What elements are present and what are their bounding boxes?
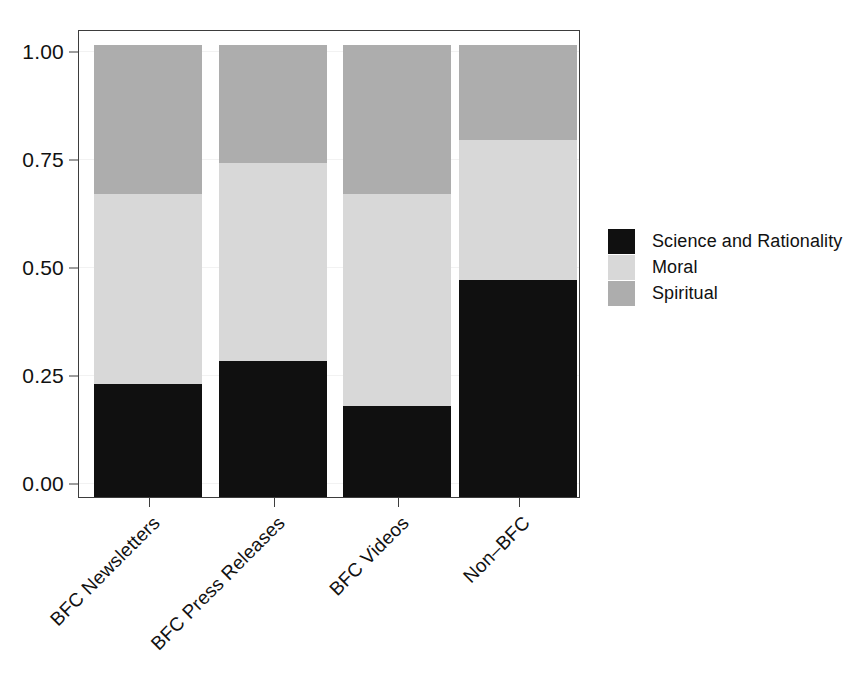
y-axis: 1.00 0.75 0.50 0.25 0.00 (0, 0, 78, 677)
x-axis: BFC Newsletters BFC Press Releases BFC V… (78, 498, 580, 677)
legend-item-spiritual[interactable]: Spiritual (608, 280, 848, 306)
y-axis-tick-mark-3 (69, 268, 78, 269)
stacked-bar-chart-figure: 1.00 0.75 0.50 0.25 0.00 (0, 0, 849, 677)
x-axis-tick-mark-3 (398, 498, 399, 507)
plot-area (79, 31, 579, 497)
y-axis-tick-mark-4 (69, 376, 78, 377)
y-axis-tick-label-4: 0.25 (22, 364, 64, 388)
y-axis-tick-label-5: 0.00 (22, 472, 64, 496)
legend-label-science-and-rationality: Science and Rationality (652, 231, 842, 252)
y-axis-tick-label-1: 1.00 (22, 40, 64, 64)
bar-segment-moral[interactable] (94, 194, 202, 384)
y-axis-tick-label-3: 0.50 (22, 256, 64, 280)
y-axis-tick-mark-1 (69, 52, 78, 53)
x-axis-tick-label-bfc-press-releases: BFC Press Releases (147, 512, 290, 655)
bar-segment-science-and-rationality[interactable] (219, 361, 327, 497)
bar-segment-spiritual[interactable] (343, 45, 451, 194)
bar-segment-moral[interactable] (219, 163, 327, 361)
bar-segment-moral[interactable] (343, 194, 451, 406)
bar-bfc-videos[interactable] (343, 45, 451, 497)
legend-label-moral: Moral (652, 257, 698, 278)
y-axis-tick-mark-2 (69, 160, 78, 161)
x-axis-tick-mark-2 (274, 498, 275, 507)
bar-segment-spiritual[interactable] (459, 45, 577, 140)
y-axis-tick-mark-5 (69, 484, 78, 485)
legend-item-science-and-rationality[interactable]: Science and Rationality (608, 228, 848, 254)
plot-panel (78, 30, 580, 498)
legend-swatch-icon-spiritual (608, 281, 635, 306)
legend-swatch-icon-moral (608, 255, 635, 280)
bar-segment-moral[interactable] (459, 140, 577, 280)
x-axis-tick-mark-1 (149, 498, 150, 507)
legend-label-spiritual: Spiritual (652, 283, 718, 304)
bar-segment-science-and-rationality[interactable] (94, 384, 202, 497)
bar-bfc-press-releases[interactable] (219, 45, 327, 497)
bar-bfc-newsletters[interactable] (94, 45, 202, 497)
bar-segment-science-and-rationality[interactable] (459, 280, 577, 497)
bar-segment-spiritual[interactable] (219, 45, 327, 163)
bar-non-bfc[interactable] (459, 45, 577, 497)
bar-segment-spiritual[interactable] (94, 45, 202, 194)
legend: Science and Rationality Moral Spiritual (608, 228, 848, 306)
x-axis-tick-label-bfc-videos: BFC Videos (313, 512, 413, 612)
y-axis-tick-label-2: 0.75 (22, 148, 64, 172)
x-axis-tick-mark-4 (519, 498, 520, 507)
legend-swatch-icon-science-and-rationality (608, 229, 635, 254)
legend-item-moral[interactable]: Moral (608, 254, 848, 280)
bar-segment-science-and-rationality[interactable] (343, 406, 451, 497)
x-axis-tick-label-non-bfc: Non–BFC (448, 512, 534, 598)
